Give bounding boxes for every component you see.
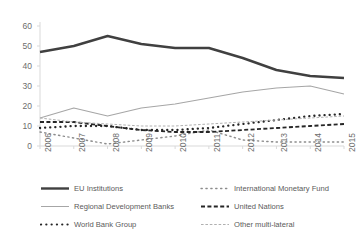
x-tick-2015: 2015 (348, 133, 357, 152)
series-layer (40, 36, 344, 144)
x-tick-2013: 2013 (280, 133, 289, 152)
legend-item-other-multi-lateral[interactable]: Other multi-lateral (200, 220, 294, 229)
line-key-dotted-thick-black (40, 220, 70, 229)
x-tick-2011: 2011 (213, 134, 222, 152)
series-line-eu-institutions (40, 36, 344, 78)
legend-label: United Nations (234, 202, 284, 211)
legend-label: World Bank Group (74, 220, 136, 229)
line-key-solid-thick-black (40, 184, 70, 193)
x-tick-2012: 2012 (247, 133, 256, 152)
x-tick-2009: 2009 (145, 133, 154, 152)
x-tick-2008: 2008 (112, 133, 121, 152)
x-tick-2010: 2010 (179, 133, 188, 152)
series-line-world-bank-group (40, 114, 344, 130)
legend-label: Other multi-lateral (234, 220, 294, 229)
legend-label: EU Institutions (74, 184, 123, 193)
x-tick-2014: 2014 (314, 133, 323, 152)
line-key-dashed-fine-gray (200, 220, 230, 229)
legend-label: Regional Development Banks (74, 202, 174, 211)
series-line-regional-development-banks (40, 86, 344, 118)
line-key-dashed-black (200, 202, 230, 211)
legend-item-eu-institutions[interactable]: EU Institutions (40, 184, 123, 193)
legend-item-world-bank-group[interactable]: World Bank Group (40, 220, 136, 229)
line-key-dotted-fine-gray (200, 184, 230, 193)
x-axis: 2006 2007 2008 2009 2010 2011 2012 2013 … (0, 148, 350, 182)
x-tick-2007: 2007 (78, 133, 87, 152)
legend-item-regional-development-banks[interactable]: Regional Development Banks (40, 202, 174, 211)
x-tick-2006: 2006 (44, 133, 53, 152)
legend-item-united-nations[interactable]: United Nations (200, 202, 284, 211)
line-key-solid-thin-gray (40, 202, 70, 211)
legend-item-international-monetary-fund[interactable]: International Monetary Fund (200, 184, 329, 193)
plot-area: 60 50 40 30 20 10 0 2006 2007 2008 2009 … (0, 0, 350, 178)
chart-legend: EU Institutions International Monetary F… (0, 182, 350, 233)
legend-label: International Monetary Fund (234, 184, 329, 193)
